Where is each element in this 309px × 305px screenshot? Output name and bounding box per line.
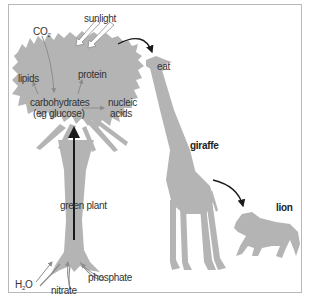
label-h2o: H2O: [15, 279, 32, 294]
label-carbohydrates: carbohydrates: [30, 97, 89, 108]
h2o-o: O: [25, 279, 32, 290]
label-lipids: lipids: [18, 73, 39, 84]
co2-subscript: 2: [47, 32, 50, 38]
h2o-h: H: [15, 279, 22, 290]
label-giraffe: giraffe: [190, 140, 218, 151]
label-phosphate: phosphate: [88, 272, 132, 283]
label-sunlight: sunlight: [84, 13, 116, 24]
label-eat: eat: [157, 61, 170, 72]
lion-silhouette: [234, 212, 300, 258]
label-lion: lion: [276, 202, 293, 213]
h2o-arrow: [36, 262, 52, 282]
label-nucleic: nucleic: [108, 97, 137, 108]
label-protein: protein: [78, 69, 106, 80]
label-nitrate: nitrate: [51, 285, 77, 296]
food-chain-illustration: [0, 0, 309, 305]
giraffe-to-lion-arrow: [213, 180, 243, 206]
giraffe-silhouette: [146, 56, 226, 270]
label-green-plant: green plant: [60, 200, 107, 211]
label-glucose: (eg glucose): [33, 108, 84, 119]
label-co2: CO2: [33, 26, 50, 41]
label-acids: acids: [110, 108, 132, 119]
co2-text: CO: [33, 26, 47, 37]
